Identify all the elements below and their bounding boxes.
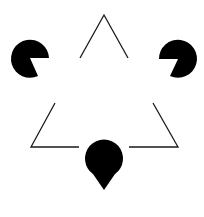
kanizsa-figure xyxy=(0,0,204,217)
